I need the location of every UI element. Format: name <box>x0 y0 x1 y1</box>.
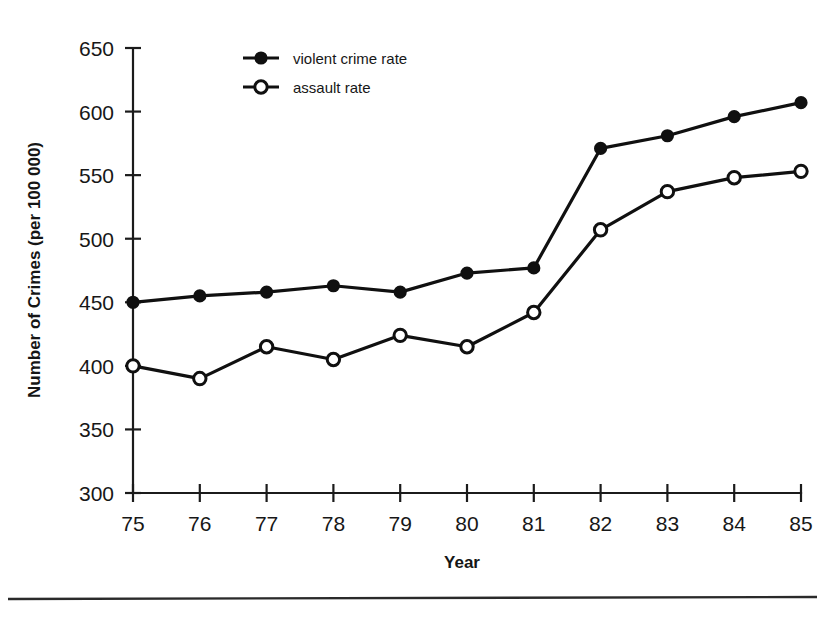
legend-open-circle-icon <box>255 81 267 93</box>
data-point-marker <box>528 262 539 273</box>
y-tick-label: 450 <box>79 291 114 314</box>
x-tick-label: 77 <box>255 512 278 535</box>
x-tick-label: 76 <box>188 512 211 535</box>
x-tick-label: 78 <box>322 512 345 535</box>
y-tick-label: 300 <box>79 482 114 505</box>
x-tick-label: 83 <box>656 512 679 535</box>
data-point-marker <box>461 341 473 353</box>
data-point-marker <box>661 185 673 197</box>
y-tick-label: 500 <box>79 228 114 251</box>
x-tick-label: 75 <box>121 512 144 535</box>
data-point-marker <box>594 224 606 236</box>
y-tick-label: 650 <box>79 37 114 60</box>
x-tick-label: 79 <box>389 512 412 535</box>
legend-label: violent crime rate <box>293 50 407 67</box>
data-point-marker <box>327 353 339 365</box>
y-tick-label: 350 <box>79 418 114 441</box>
data-point-marker <box>662 130 673 141</box>
x-axis-title: Year <box>444 553 480 572</box>
data-point-marker <box>328 280 339 291</box>
data-point-marker <box>127 297 138 308</box>
data-point-marker <box>795 165 807 177</box>
data-point-marker <box>127 360 139 372</box>
data-point-marker <box>260 341 272 353</box>
line-chart: 300350400450500550600650 757677787980818… <box>0 0 825 618</box>
data-point-marker <box>194 290 205 301</box>
x-tick-label: 81 <box>522 512 545 535</box>
y-tick-group: 300350400450500550600650 <box>79 37 141 505</box>
data-point-marker <box>729 111 740 122</box>
data-point-marker <box>194 372 206 384</box>
data-point-marker <box>595 143 606 154</box>
legend-filled-circle-icon <box>255 52 266 63</box>
legend-label: assault rate <box>293 79 371 96</box>
y-axis-title: Number of Crimes (per 100 000) <box>25 142 44 398</box>
x-tick-group: 7576777879808182838485 <box>121 484 812 535</box>
data-point-marker <box>395 287 406 298</box>
x-tick-label: 85 <box>789 512 812 535</box>
x-tick-label: 82 <box>589 512 612 535</box>
chart-legend: violent crime rateassault rate <box>243 50 407 96</box>
footer-divider <box>8 597 817 599</box>
data-point-marker <box>261 287 272 298</box>
y-tick-label: 400 <box>79 355 114 378</box>
x-tick-label: 84 <box>723 512 747 535</box>
chart-figure: 300350400450500550600650 757677787980818… <box>0 0 825 618</box>
data-point-marker <box>795 97 806 108</box>
y-tick-label: 600 <box>79 101 114 124</box>
data-point-marker <box>728 171 740 183</box>
x-tick-label: 80 <box>455 512 478 535</box>
data-point-marker <box>461 267 472 278</box>
series-group <box>127 97 807 385</box>
y-tick-label: 550 <box>79 164 114 187</box>
data-point-marker <box>394 329 406 341</box>
data-point-marker <box>528 306 540 318</box>
